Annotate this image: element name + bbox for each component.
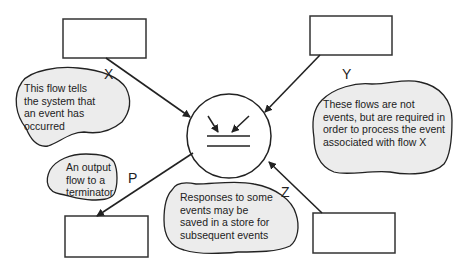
flow-z-label: Z	[281, 184, 290, 200]
terminator-top-left	[63, 19, 146, 58]
terminator-bottom-right	[313, 213, 395, 253]
note-responses-saved: Responses to some events may be saved in…	[180, 191, 276, 241]
flow-p-label: P	[128, 170, 137, 186]
terminator-bottom-left	[65, 216, 148, 257]
note-output-flow: An output flow to a terminator	[66, 161, 116, 199]
note-required-flows: These flows are not events, but are requ…	[323, 98, 445, 148]
note-event-flow: This flow tells the system that an event…	[24, 82, 104, 132]
terminator-top-right	[310, 16, 392, 55]
flow-y-arrow	[265, 55, 320, 112]
event-response-diagram: X Y P Z This flow tells the system that …	[0, 0, 460, 268]
flow-y-label: Y	[342, 66, 351, 82]
flow-x-label: X	[104, 66, 113, 82]
